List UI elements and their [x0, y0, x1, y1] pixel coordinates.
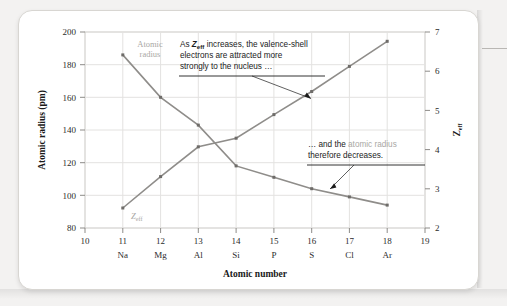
data-point [159, 175, 162, 178]
x-tick-19: 19 [421, 236, 431, 246]
anno-bottom-line1-pre: … and the [308, 140, 348, 149]
y-left-axis: 200 180 160 140 120 100 80 [63, 27, 86, 233]
y-right-tick-4: 4 [435, 145, 440, 155]
data-point [348, 65, 351, 68]
series-label-zeff-sub: eff [136, 215, 144, 222]
y-right-tick-5: 5 [435, 106, 440, 116]
y-left-tick-180: 180 [63, 60, 77, 70]
series-label-atomic-radius-line2: radius [140, 49, 161, 59]
svg-text:… and the atomic radius: … and the atomic radius [308, 140, 397, 149]
x-axis: 10 11 12 13 14 15 16 17 18 19 Na Mg Al S… [81, 228, 431, 260]
element-label-na: Na [118, 250, 129, 260]
series-label-atomic-radius-line1: Atomic [137, 39, 163, 49]
x-tick-11: 11 [118, 236, 127, 246]
element-label-cl: Cl [345, 250, 354, 260]
x-tick-18: 18 [383, 236, 393, 246]
y-right-axis: 7 6 5 4 3 2 [425, 27, 440, 233]
x-tick-16: 16 [307, 236, 317, 246]
anno-bottom-line1-accent: atomic radius [348, 140, 397, 149]
data-point [272, 113, 275, 116]
y-left-tick-120: 120 [63, 158, 77, 168]
data-point [121, 207, 124, 210]
data-point [272, 176, 275, 179]
element-label-al: Al [194, 250, 203, 260]
element-label-s: S [309, 250, 314, 260]
x-tick-14: 14 [232, 236, 242, 246]
anno-top-line2: electrons are attracted more [180, 51, 283, 60]
element-label-mg: Mg [154, 250, 167, 260]
data-point [121, 53, 124, 56]
chart-canvas: 200 180 160 140 120 100 80 Atomic radius… [0, 0, 507, 306]
data-point [310, 90, 313, 93]
element-label-ar: Ar [382, 250, 392, 260]
figure-page: 200 180 160 140 120 100 80 Atomic radius… [0, 0, 507, 306]
data-point [348, 195, 351, 198]
x-tick-17: 17 [345, 236, 355, 246]
anno-bottom-line2: therefore decreases. [308, 151, 383, 160]
anno-top-prefix: As [180, 40, 192, 49]
data-point [197, 124, 200, 127]
data-point [235, 164, 238, 167]
data-point [235, 137, 238, 140]
x-tick-10: 10 [81, 236, 91, 246]
y-left-tick-140: 140 [63, 125, 77, 135]
element-label-si: Si [232, 250, 240, 260]
data-point [310, 187, 313, 190]
y-right-tick-6: 6 [435, 66, 440, 76]
element-label-p: P [271, 250, 276, 260]
x-tick-13: 13 [194, 236, 204, 246]
x-axis-title: Atomic number [223, 269, 288, 279]
y-right-tick-7: 7 [435, 27, 440, 37]
y-left-axis-title: Atomic radius (pm) [37, 90, 48, 170]
y-right-title-sub: eff [456, 122, 463, 130]
x-tick-15: 15 [269, 236, 279, 246]
anno-top-line1-rest: increases, the valence-shell [204, 40, 307, 49]
data-point [386, 40, 389, 43]
anno-top-line3: strongly to the nucleus … [180, 62, 272, 71]
y-left-tick-200: 200 [63, 27, 77, 37]
y-right-tick-3: 3 [435, 184, 440, 194]
data-point [197, 145, 200, 148]
y-left-tick-80: 80 [67, 223, 77, 233]
data-point [386, 204, 389, 207]
x-tick-12: 12 [156, 236, 165, 246]
data-point [159, 96, 162, 99]
y-left-tick-160: 160 [63, 93, 77, 103]
y-right-tick-2: 2 [435, 223, 440, 233]
y-right-axis-title: Zeff [452, 122, 463, 136]
svg-text:Zeff: Zeff [452, 122, 463, 136]
y-left-tick-100: 100 [63, 191, 77, 201]
